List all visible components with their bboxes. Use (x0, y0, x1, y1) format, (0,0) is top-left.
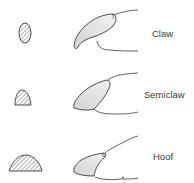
claw-label: Claw (152, 29, 173, 39)
claw-profile-drawing (74, 10, 138, 51)
semiclaw-cross-section (15, 90, 31, 105)
claw-row (19, 10, 138, 51)
hoof-row (9, 136, 138, 180)
claw-cross-section (19, 23, 31, 43)
semiclaw-row (15, 73, 138, 114)
hoof-profile-drawing (74, 136, 138, 180)
hoof-cross-section (9, 155, 42, 171)
semiclaw-profile-drawing (74, 73, 138, 114)
semiclaw-label: Semiclaw (144, 90, 185, 100)
hoof-label: Hoof (153, 152, 173, 162)
